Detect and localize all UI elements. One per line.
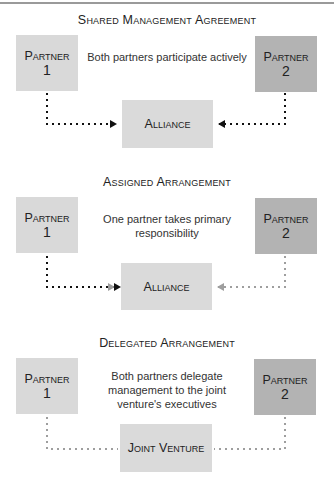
link-partner1-alliance bbox=[47, 256, 114, 287]
link-partner1-jv bbox=[47, 417, 118, 449]
partner-label: Partner bbox=[24, 49, 69, 63]
partner-number: 1 bbox=[43, 63, 51, 77]
partner-number: 2 bbox=[281, 387, 289, 401]
partner-2-box: Partner 2 bbox=[255, 36, 317, 92]
joint-venture-box: Joint Venture bbox=[120, 424, 212, 472]
link-partner2-jv bbox=[214, 417, 285, 449]
partner-label: Partner bbox=[262, 373, 307, 387]
link-partner2-alliance bbox=[218, 256, 285, 287]
partner-label: Partner bbox=[263, 212, 308, 226]
section-description: One partner takes primary responsibility bbox=[84, 212, 250, 240]
link-partner2-alliance bbox=[219, 93, 285, 124]
section-title: Assigned Arrangement bbox=[0, 175, 334, 189]
section-description: Both partners participate actively bbox=[84, 50, 250, 64]
partner-label: Partner bbox=[24, 211, 69, 225]
partner-label: Partner bbox=[24, 372, 69, 386]
alliance-box: Alliance bbox=[122, 100, 213, 148]
link-partner1-alliance bbox=[47, 93, 116, 124]
partner-number: 2 bbox=[282, 64, 290, 78]
partner-2-box: Partner 2 bbox=[255, 198, 317, 254]
partner-number: 1 bbox=[43, 225, 51, 239]
partner-1-box: Partner 1 bbox=[16, 197, 78, 253]
section-description: Both partners delegate management to the… bbox=[98, 369, 236, 411]
partner-2-box: Partner 2 bbox=[254, 359, 316, 415]
section-title: Shared Management Agreement bbox=[0, 13, 334, 27]
partner-number: 2 bbox=[282, 226, 290, 240]
partner-1-box: Partner 1 bbox=[16, 35, 78, 91]
section-title: Delegated Arrangement bbox=[0, 336, 334, 350]
partner-number: 1 bbox=[43, 386, 51, 400]
partner-label: Partner bbox=[263, 50, 308, 64]
partner-1-box: Partner 1 bbox=[16, 358, 78, 414]
alliance-box: Alliance bbox=[121, 263, 212, 310]
